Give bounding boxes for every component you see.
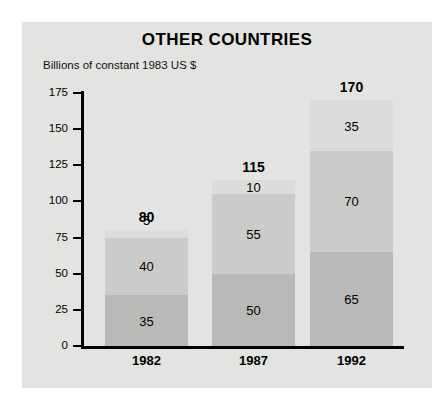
chart-panel: OTHER COUNTRIES Billions of constant 198… bbox=[22, 22, 432, 388]
y-axis-tick-label: 0 bbox=[28, 340, 68, 352]
bar-segment-value-label: 50 bbox=[212, 303, 295, 316]
bar-segment-value-label: 65 bbox=[310, 293, 393, 306]
x-axis-category-label: 1982 bbox=[105, 353, 188, 368]
y-axis-tick-mark bbox=[73, 164, 81, 166]
y-axis-tick-mark bbox=[73, 237, 81, 239]
y-axis-tick-label: 125 bbox=[28, 159, 68, 171]
bar-segment-middle[interactable]: 55 bbox=[212, 194, 295, 274]
bar-segment-bottom[interactable]: 65 bbox=[310, 252, 393, 346]
bar-segment-value-label: 10 bbox=[212, 180, 295, 193]
bar-segment-top[interactable]: 10 bbox=[212, 180, 295, 194]
bar-segment-value-label: 55 bbox=[212, 227, 295, 240]
chart-figure: OTHER COUNTRIES Billions of constant 198… bbox=[0, 0, 438, 395]
x-axis-category-label: 1987 bbox=[212, 353, 295, 368]
y-axis-tick-mark bbox=[73, 273, 81, 275]
y-axis-tick-label: 175 bbox=[28, 87, 68, 99]
y-axis-tick-label: 25 bbox=[28, 304, 68, 316]
y-axis-tick-label: 50 bbox=[28, 268, 68, 280]
bar-segment-middle[interactable]: 70 bbox=[310, 151, 393, 252]
y-axis-tick-mark bbox=[73, 309, 81, 311]
y-axis-tick-mark bbox=[73, 200, 81, 202]
y-axis-tick-label: 150 bbox=[28, 123, 68, 135]
y-axis-line bbox=[81, 91, 84, 348]
plot-area: 0255075100125150175 80540351151055501703… bbox=[22, 22, 432, 388]
bar-group[interactable]: 115105550 bbox=[212, 180, 295, 346]
x-axis-category-label: 1992 bbox=[310, 353, 393, 368]
x-axis-line bbox=[81, 346, 404, 349]
bar-segment-value-label: 35 bbox=[310, 119, 393, 132]
bar-group[interactable]: 170357065 bbox=[310, 100, 393, 346]
bar-segment-bottom[interactable]: 35 bbox=[105, 295, 188, 346]
bar-segment-bottom[interactable]: 50 bbox=[212, 274, 295, 346]
y-axis-tick-mark bbox=[73, 345, 81, 347]
y-axis-tick-label: 100 bbox=[28, 195, 68, 207]
bar-segment-top[interactable]: 35 bbox=[310, 100, 393, 151]
bar-segment-middle[interactable]: 40 bbox=[105, 238, 188, 296]
bar-total-label: 170 bbox=[310, 80, 393, 94]
bar-segment-value-label: 40 bbox=[105, 260, 188, 273]
bar-group[interactable]: 8054035 bbox=[105, 230, 188, 346]
bar-total-label: 115 bbox=[212, 160, 295, 174]
bar-segment-value-label: 70 bbox=[310, 195, 393, 208]
bar-segment-value-label: 35 bbox=[105, 314, 188, 327]
bar-segment-top[interactable]: 5 bbox=[105, 230, 188, 237]
y-axis-tick-mark bbox=[73, 128, 81, 130]
y-axis-tick-label: 75 bbox=[28, 232, 68, 244]
y-axis-tick-mark bbox=[73, 92, 81, 94]
bar-segment-value-label: 5 bbox=[105, 214, 188, 227]
